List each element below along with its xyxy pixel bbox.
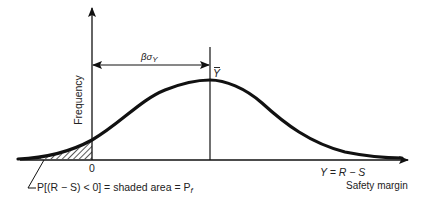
safety-margin-diagram: Frequency 0 Y βσY Y = R − S Safety margi… <box>0 0 428 204</box>
annotation-text: P[(R − S) < 0] = shaded area = P <box>37 181 191 193</box>
mean-label-text: Y <box>213 67 221 79</box>
shaded-failure-area <box>22 140 92 159</box>
failure-probability-annotation: P[(R − S) < 0] = shaded area = Pf <box>37 181 194 195</box>
beta-sigma-label: βσY <box>140 51 158 64</box>
origin-label: 0 <box>89 162 95 174</box>
x-axis-label: Safety margin <box>346 180 408 191</box>
y-axis-label: Frequency <box>72 74 84 124</box>
annotation-subscript: f <box>191 186 194 195</box>
x-axis-formula-label: Y = R − S <box>320 166 365 178</box>
beta-sigma-subscript: Y <box>152 55 158 64</box>
mean-label: Y <box>213 67 221 79</box>
